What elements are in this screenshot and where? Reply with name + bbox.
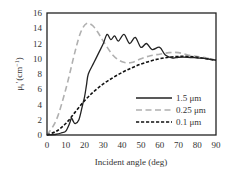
legend-label: 1.5 μm [176, 93, 201, 103]
chart: 0246810121416 0102030405060708090 Incide… [0, 0, 231, 179]
y-axis-label: μs′(cm−1) [14, 57, 25, 91]
y-tick-label: 16 [33, 8, 43, 18]
y-tick-label: 2 [38, 115, 43, 125]
x-tick-label: 70 [174, 140, 184, 150]
y-axis-ticks: 0246810121416 [33, 8, 43, 140]
x-tick-label: 60 [155, 140, 165, 150]
y-tick-label: 0 [38, 130, 43, 140]
y-label-unit: (cm [14, 67, 24, 81]
x-tick-label: 0 [45, 140, 50, 150]
y-label-prime: ′ [14, 82, 24, 84]
y-tick-label: 8 [38, 69, 43, 79]
x-tick-label: 90 [212, 140, 222, 150]
x-tick-label: 10 [61, 140, 71, 150]
y-tick-label: 12 [33, 39, 42, 49]
x-axis-ticks: 0102030405060708090 [45, 140, 221, 150]
legend-label: 0.25 μm [176, 105, 206, 115]
y-label-close: ) [14, 57, 24, 60]
y-tick-label: 6 [38, 84, 43, 94]
x-axis-label: Incident angle (deg) [95, 157, 167, 167]
x-tick-label: 80 [193, 140, 203, 150]
y-tick-label: 10 [33, 54, 43, 64]
x-tick-label: 20 [80, 140, 90, 150]
y-tick-label: 4 [38, 100, 43, 110]
legend: 1.5 μm0.25 μm0.1 μm [136, 93, 206, 127]
x-tick-label: 50 [136, 140, 146, 150]
x-tick-label: 40 [118, 140, 128, 150]
svg-text:μs′(cm−1): μs′(cm−1) [14, 57, 25, 91]
x-tick-label: 30 [99, 140, 109, 150]
y-tick-label: 14 [33, 23, 43, 33]
legend-label: 0.1 μm [176, 117, 201, 127]
